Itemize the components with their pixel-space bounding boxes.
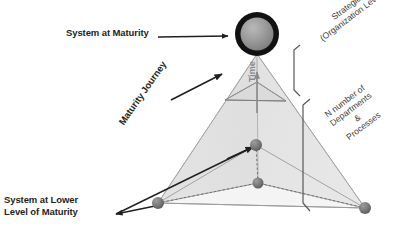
system-at-maturity-arrow [158, 36, 228, 37]
label-time-axis: Time [247, 61, 258, 82]
base-right-node [359, 202, 371, 214]
interior-upper-node [250, 139, 262, 151]
label-system-at-maturity: System at Maturity [66, 27, 149, 39]
diagram-canvas: System at Maturity System at Lower Level… [0, 0, 418, 237]
maturity-journey-arrow [171, 74, 222, 100]
label-system-at-lower-maturity: System at Lower Level of Maturity [4, 194, 78, 217]
interior-lower-node [253, 178, 264, 189]
label-system-at-lower-line1: System at Lower [4, 194, 78, 206]
label-system-at-lower-line2: Level of Maturity [4, 206, 78, 218]
system-at-maturity-sphere [235, 12, 279, 56]
strategic-bracket [294, 45, 300, 96]
base-left-node [152, 197, 164, 209]
